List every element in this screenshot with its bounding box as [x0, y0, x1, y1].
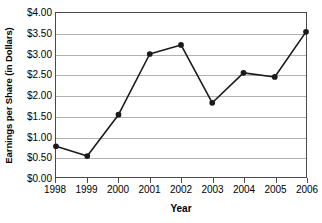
- x-axis-tick-label: 2002: [170, 184, 192, 195]
- x-axis-tick-label: 1998: [44, 184, 66, 195]
- y-axis-tick-label: $0.00: [27, 173, 52, 184]
- data-series-earnings-per-share: [56, 13, 306, 177]
- data-point-marker: [209, 100, 215, 106]
- x-axis-tick-label: 2000: [107, 184, 129, 195]
- y-axis-tick-label: $3.00: [27, 48, 52, 59]
- data-point-marker: [116, 112, 122, 118]
- y-axis-tick-labels: $0.00$0.50$1.00$1.50$2.00$2.50$3.00$3.50…: [16, 0, 55, 190]
- x-axis-tick: [87, 178, 88, 183]
- data-point-marker: [272, 74, 278, 80]
- y-axis-tick-label: $2.50: [27, 69, 52, 80]
- line-chart: Earnings per Share (in Dollars) $0.00$0.…: [0, 0, 322, 223]
- y-axis-title-text: Earnings per Share (in Dollars): [3, 27, 14, 163]
- data-point-marker: [53, 143, 59, 149]
- series-line: [56, 32, 306, 156]
- y-axis-tick-label: $2.00: [27, 90, 52, 101]
- x-axis-tick-labels: 199819992000200120022003200420052006: [55, 184, 307, 198]
- data-point-marker: [241, 70, 247, 76]
- x-axis-tick: [244, 178, 245, 183]
- x-axis-title: Year: [55, 203, 307, 214]
- x-axis-ticks: [55, 178, 307, 183]
- x-axis-tick-label: 2006: [296, 184, 318, 195]
- x-axis-tick: [307, 178, 308, 183]
- data-point-marker: [147, 51, 153, 57]
- y-axis-tick-label: $3.50: [27, 27, 52, 38]
- data-point-marker: [178, 42, 184, 48]
- y-axis-tick-label: $4.00: [27, 7, 52, 18]
- x-axis-tick: [118, 178, 119, 183]
- x-axis-tick-label: 2004: [233, 184, 255, 195]
- data-point-marker: [303, 29, 309, 35]
- y-axis-tick-label: $1.00: [27, 131, 52, 142]
- x-axis-tick: [150, 178, 151, 183]
- x-axis-tick: [181, 178, 182, 183]
- data-point-marker: [84, 153, 90, 159]
- y-axis-tick-label: $1.50: [27, 110, 52, 121]
- y-axis-tick-label: $0.50: [27, 152, 52, 163]
- plot-area: [55, 12, 307, 178]
- x-axis-tick: [55, 178, 56, 183]
- x-axis-tick-label: 2001: [138, 184, 160, 195]
- x-axis-tick-label: 2005: [264, 184, 286, 195]
- x-axis-tick: [213, 178, 214, 183]
- y-axis-title: Earnings per Share (in Dollars): [0, 0, 16, 190]
- x-axis-tick-label: 1999: [75, 184, 97, 195]
- x-axis-tick: [276, 178, 277, 183]
- x-axis-tick-label: 2003: [201, 184, 223, 195]
